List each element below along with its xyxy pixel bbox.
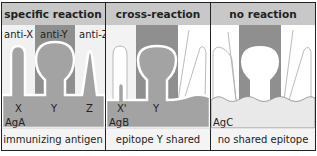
antibody-specificity-diagram: specific reaction anti-X anti-Y anti-Z X… (0, 0, 317, 156)
antigen-label: AgC (213, 117, 233, 128)
epitope-label: X' (117, 103, 127, 114)
antigen-label: AgB (109, 117, 129, 128)
epitope-label: Y (152, 103, 160, 114)
panel-header: no reaction (229, 8, 296, 20)
antibody-label: anti-Y (40, 29, 69, 40)
panel-caption: no shared epitope (218, 134, 309, 145)
antibody-label: anti-X (4, 29, 33, 40)
epitope-label: X (15, 103, 22, 114)
panel-header: specific reaction (4, 8, 101, 20)
antigen-aga (2, 42, 105, 128)
epitope-label: Y (50, 103, 58, 114)
panel-caption: epitope Y shared (116, 134, 200, 145)
epitope-label: Z (86, 103, 93, 114)
panel-header: cross-reaction (116, 8, 200, 20)
antigen-label: AgA (5, 117, 25, 128)
panel-caption: immunizing antigen (3, 134, 103, 145)
antibody-label: anti-Z (79, 29, 109, 40)
